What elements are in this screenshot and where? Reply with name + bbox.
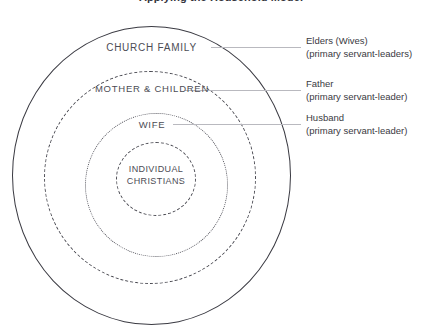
ring-label-church-family: CHURCH FAMILY — [0, 42, 303, 53]
annotation-husband: Husband (primary servant-leader) — [306, 112, 407, 137]
annotation-elders: Elders (Wives) (primary servant-leaders) — [306, 35, 412, 60]
diagram-canvas: Applying the Household Model CHURCH FAMI… — [0, 0, 442, 332]
annotation-elders-subtitle: (primary servant-leaders) — [306, 48, 412, 61]
annotation-father-subtitle: (primary servant-leader) — [306, 91, 407, 104]
annotation-husband-title: Husband — [306, 112, 407, 125]
ring-label-wife: WIFE — [0, 119, 304, 130]
page-title: Applying the Household Model — [0, 0, 442, 3]
ring-label-individual-christians: INDIVIDUAL CHRISTIANS — [116, 164, 196, 187]
annotation-father-title: Father — [306, 78, 407, 91]
annotation-elders-title: Elders (Wives) — [306, 35, 412, 48]
ring-label-mother-children: MOTHER & CHILDREN — [0, 83, 304, 95]
annotation-husband-subtitle: (primary servant-leader) — [306, 125, 407, 138]
annotation-father: Father (primary servant-leader) — [306, 78, 407, 103]
